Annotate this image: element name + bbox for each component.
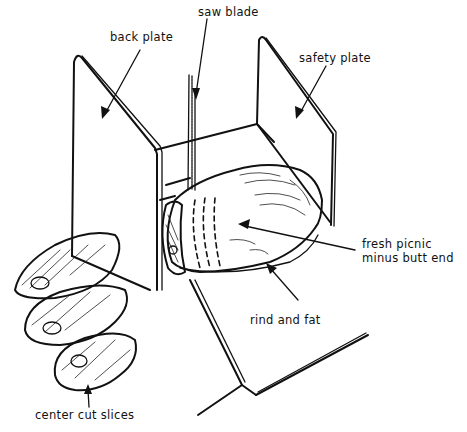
safety-plate-drawing <box>257 37 336 226</box>
center-cut-slices-drawing <box>15 233 136 390</box>
label-center-cut-slices: center cut slices <box>35 409 134 422</box>
label-back-plate: back plate <box>110 31 173 44</box>
table-front-edges <box>190 280 368 415</box>
label-saw-blade: saw blade <box>198 6 259 19</box>
label-rind-and-fat: rind and fat <box>250 314 321 327</box>
saw-table-lines <box>155 124 274 200</box>
picnic-ham-drawing <box>162 165 322 274</box>
label-fresh-picnic-line2: minus butt end <box>362 252 454 265</box>
saw-illustration <box>0 0 467 432</box>
annotation-arrows <box>84 19 355 407</box>
diagram-canvas: saw blade back plate safety plate fresh … <box>0 0 467 432</box>
label-fresh-picnic-line1: fresh picnic <box>362 238 432 251</box>
label-safety-plate: safety plate <box>299 52 371 65</box>
